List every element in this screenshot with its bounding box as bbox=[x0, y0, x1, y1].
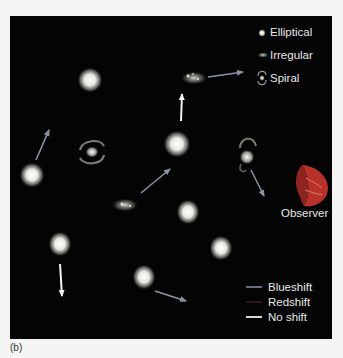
legend-label-spiral: Spiral bbox=[270, 72, 299, 85]
irregular-galaxy-icon bbox=[111, 198, 139, 212]
elliptical-galaxy-icon bbox=[209, 235, 233, 261]
legend-label-elliptical: Elliptical bbox=[270, 26, 312, 39]
elliptical-galaxy-icon bbox=[163, 130, 191, 158]
spiral-galaxy-icon bbox=[258, 71, 266, 84]
elliptical-galaxy-icon bbox=[258, 29, 266, 37]
blueshift-arrow bbox=[141, 169, 170, 193]
spiral-galaxy-icon bbox=[239, 139, 256, 172]
galaxies bbox=[19, 67, 256, 290]
blueshift-arrow bbox=[155, 291, 186, 301]
spiral-galaxy-icon bbox=[80, 141, 104, 163]
figure-caption: (b) bbox=[10, 342, 22, 353]
irregular-galaxy-icon bbox=[180, 71, 208, 85]
elliptical-galaxy-icon bbox=[48, 231, 72, 257]
noshift-arrow bbox=[181, 94, 182, 121]
legend-label-irregular: Irregular bbox=[270, 49, 313, 62]
blueshift-arrow bbox=[208, 72, 243, 77]
legend-shift-swatches bbox=[246, 287, 262, 317]
irregular-galaxy-icon bbox=[257, 52, 269, 58]
blueshift-arrow bbox=[36, 130, 49, 160]
legend-galaxy-icons bbox=[257, 29, 269, 85]
legend-label-redshift: Redshift bbox=[268, 296, 310, 309]
noshift-arrow bbox=[60, 264, 62, 296]
elliptical-galaxy-icon bbox=[77, 67, 103, 93]
legend-label-noshift: No shift bbox=[268, 311, 307, 324]
legend-label-blueshift: Blueshift bbox=[268, 281, 312, 294]
elliptical-galaxy-icon bbox=[132, 264, 156, 290]
blueshift-arrow bbox=[251, 170, 264, 196]
observer-label: Observer bbox=[281, 207, 328, 220]
observer-icon bbox=[296, 165, 328, 206]
elliptical-galaxy-icon bbox=[19, 162, 45, 188]
elliptical-galaxy-icon bbox=[176, 199, 200, 225]
